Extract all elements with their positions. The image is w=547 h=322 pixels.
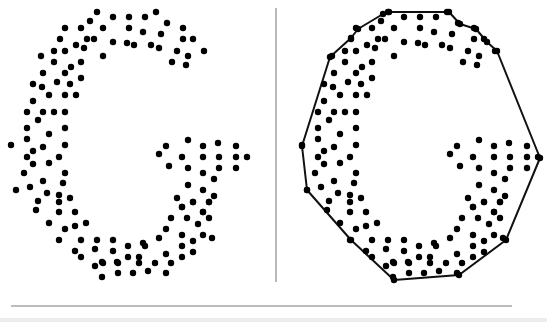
data-point	[433, 14, 439, 20]
data-point	[470, 254, 476, 260]
data-point	[506, 140, 512, 146]
data-point	[168, 260, 174, 266]
data-point	[44, 190, 50, 196]
data-point	[401, 39, 407, 45]
data-point	[30, 81, 36, 87]
data-point	[447, 45, 453, 51]
data-point	[174, 48, 180, 54]
data-point	[475, 215, 481, 221]
data-point	[347, 192, 353, 198]
data-point	[491, 154, 497, 160]
data-point	[369, 237, 375, 243]
data-point	[364, 92, 370, 98]
data-point	[179, 154, 185, 160]
data-point	[315, 125, 321, 131]
data-point	[347, 154, 353, 160]
data-point	[62, 109, 68, 115]
data-point	[465, 195, 471, 201]
data-point	[351, 180, 357, 186]
data-point	[54, 79, 60, 85]
data-point	[56, 209, 62, 215]
data-point	[81, 45, 87, 51]
data-point	[33, 207, 39, 213]
data-point	[447, 235, 453, 241]
data-point	[447, 151, 453, 157]
data-point	[353, 170, 359, 176]
data-point	[353, 109, 359, 115]
data-point	[383, 263, 389, 269]
data-point	[110, 14, 116, 20]
data-point	[348, 35, 354, 41]
data-point	[321, 148, 327, 154]
data-point	[30, 148, 36, 154]
data-point	[56, 199, 62, 205]
data-point	[73, 42, 79, 48]
data-point	[345, 79, 351, 85]
data-point	[457, 163, 463, 169]
right-panel-convex-hull	[299, 9, 543, 283]
data-point	[347, 209, 353, 215]
data-point	[184, 215, 190, 221]
data-point	[67, 81, 73, 87]
data-point	[195, 221, 201, 227]
footer-band	[0, 318, 547, 322]
data-point	[456, 272, 462, 278]
data-point	[13, 187, 19, 193]
data-point	[348, 237, 354, 243]
data-point	[353, 142, 359, 148]
data-point	[337, 131, 343, 137]
data-point	[415, 40, 421, 46]
data-point	[337, 160, 343, 166]
data-point	[62, 70, 68, 76]
data-point	[491, 170, 497, 176]
data-point	[454, 226, 460, 232]
data-point	[200, 170, 206, 176]
data-point	[142, 14, 148, 20]
data-point	[136, 260, 142, 266]
data-point	[524, 165, 530, 171]
data-point	[454, 143, 460, 149]
data-point	[142, 243, 148, 249]
data-point	[62, 226, 68, 232]
data-point	[190, 199, 196, 205]
data-point	[68, 64, 74, 70]
data-point	[180, 25, 186, 31]
data-point	[60, 180, 66, 186]
data-point	[474, 62, 480, 68]
data-point	[215, 140, 221, 146]
data-point	[324, 207, 330, 213]
data-point	[380, 11, 386, 17]
data-point	[299, 143, 305, 149]
data-point	[124, 40, 130, 46]
data-point	[153, 9, 159, 15]
data-point	[481, 199, 487, 205]
data-point	[406, 270, 412, 276]
data-point	[401, 237, 407, 243]
data-point	[83, 220, 89, 226]
data-point	[27, 184, 33, 190]
data-point	[39, 84, 45, 90]
data-point	[190, 238, 196, 244]
data-point	[502, 193, 508, 199]
data-point	[417, 25, 423, 31]
data-point	[46, 92, 52, 98]
data-point	[92, 263, 98, 269]
data-point	[497, 215, 503, 221]
data-point	[315, 109, 321, 115]
data-point	[62, 142, 68, 148]
data-point	[92, 246, 98, 252]
data-point	[374, 220, 380, 226]
data-point	[524, 154, 530, 160]
data-point	[125, 243, 131, 249]
data-point	[507, 165, 513, 171]
data-point	[427, 254, 433, 260]
data-point	[21, 170, 27, 176]
data-point	[51, 48, 57, 54]
data-point	[342, 59, 348, 65]
data-point	[156, 235, 162, 241]
data-point	[391, 25, 397, 31]
data-point	[321, 98, 327, 104]
data-point	[179, 204, 185, 210]
data-point	[185, 137, 191, 143]
data-point	[183, 62, 189, 68]
